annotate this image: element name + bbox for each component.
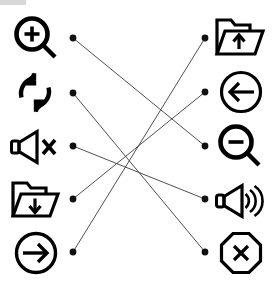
icon-zoom-out[interactable] <box>212 121 270 171</box>
connector-dot-left-mute[interactable] <box>70 143 77 150</box>
icon-folder-upload[interactable] <box>212 12 270 62</box>
connector-dot-right-folder-up[interactable] <box>202 35 209 42</box>
icon-arrow-right-circle[interactable] <box>8 228 66 278</box>
icon-stop[interactable] <box>212 228 270 278</box>
arrow-left-circle-icon <box>217 69 265 115</box>
icon-mute[interactable] <box>8 122 66 172</box>
connection-line-zoom-in-to-zoom-out[interactable] <box>73 38 205 146</box>
refresh-circular-arrows-icon <box>12 70 62 116</box>
magnifier-minus-icon <box>215 123 267 169</box>
connector-dot-left-arrow-right[interactable] <box>70 249 77 256</box>
connector-dot-left-folder-down[interactable] <box>70 196 77 203</box>
connection-dots <box>70 35 209 256</box>
connector-dot-left-refresh[interactable] <box>70 90 77 97</box>
corner-marker <box>0 0 26 5</box>
connection-line-arrow-right-to-folder-up[interactable] <box>73 38 205 252</box>
connector-dot-right-stop[interactable] <box>202 249 209 256</box>
connection-line-refresh-to-stop[interactable] <box>73 93 205 252</box>
connector-dot-left-zoom-in[interactable] <box>70 35 77 42</box>
connector-dot-right-zoom-out[interactable] <box>202 143 209 150</box>
icon-refresh[interactable] <box>8 68 66 118</box>
icon-arrow-left-circle[interactable] <box>212 67 270 117</box>
magnifier-plus-icon <box>11 15 63 61</box>
folder-upload-icon <box>214 14 268 60</box>
speaker-mute-icon <box>9 127 65 167</box>
connector-dot-right-arrow-left[interactable] <box>202 89 209 96</box>
speaker-waves-icon <box>214 181 268 221</box>
arrow-right-circle-icon <box>13 230 61 276</box>
icon-zoom-in[interactable] <box>8 13 66 63</box>
connection-line-mute-to-volume-on[interactable] <box>73 146 205 199</box>
connection-line-folder-down-to-arrow-left[interactable] <box>73 92 205 199</box>
icon-folder-download[interactable] <box>8 175 66 225</box>
connection-lines <box>73 38 205 252</box>
octagon-x-icon <box>217 230 265 276</box>
icon-matching-puzzle <box>0 0 278 288</box>
folder-download-icon <box>10 178 64 222</box>
connector-dot-right-volume-on[interactable] <box>202 196 209 203</box>
icon-volume-on[interactable] <box>212 176 270 226</box>
